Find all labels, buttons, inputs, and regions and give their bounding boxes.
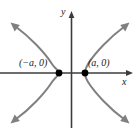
right-vertex-dot [82, 70, 89, 77]
left-branch-upper-arrowhead [11, 23, 20, 32]
left-branch-lower-arrowhead [11, 115, 20, 124]
x-axis-arrowhead [126, 70, 133, 76]
y-axis-label: y [61, 7, 65, 17]
right-branch-upper-arrowhead [120, 23, 129, 32]
right-branch-lower-arrowhead [120, 115, 129, 124]
x-axis-label: x [122, 77, 126, 87]
left-vertex-label: (−a, 0) [19, 58, 47, 68]
left-vertex-dot [56, 70, 63, 77]
y-axis-arrowhead [69, 11, 75, 18]
right-vertex-label: (a, 0) [88, 58, 110, 68]
hyperbola-figure: y x (−a, 0) (a, 0) [0, 0, 139, 133]
